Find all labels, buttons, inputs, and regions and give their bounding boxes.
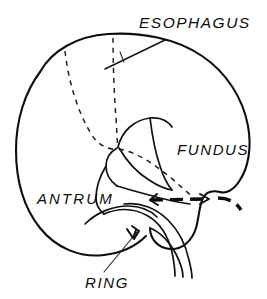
label-fundus: FUNDUS: [177, 141, 249, 158]
right-mucosal-fold-dashed: [113, 38, 118, 148]
label-esophagus: ESOPHAGUS: [139, 14, 251, 31]
gastric-body-outline: [40, 34, 250, 193]
label-ring: RING: [85, 274, 129, 291]
stomach-diagram-figure: ESOPHAGUS FUNDUS ANTRUM RING: [0, 0, 267, 299]
diagram-canvas: ESOPHAGUS FUNDUS ANTRUM RING: [0, 0, 267, 299]
ring-marker-dashes-right: [218, 198, 241, 210]
esophagus-leader-line: [105, 40, 165, 69]
cardia-lateral-fold: [150, 118, 172, 190]
label-antrum: ANTRUM: [36, 190, 114, 207]
cardia-inner-fold: [119, 148, 172, 190]
lesser-curvature-notch: [106, 148, 117, 186]
left-mucosal-fold-dashed: [65, 51, 117, 149]
ring-marker-dashes-left: [150, 199, 207, 200]
greater-curvature-outline: [16, 72, 146, 256]
cardia-roof-fold: [118, 118, 172, 147]
